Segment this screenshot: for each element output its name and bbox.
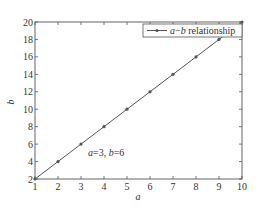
x-tick-label: 4 <box>102 181 107 192</box>
y-tick-label: 20 <box>23 17 33 28</box>
x-tick-label: 7 <box>171 181 176 192</box>
data-point-marker <box>102 125 105 128</box>
data-point-marker <box>171 73 174 76</box>
data-series <box>33 20 243 180</box>
annotation-mid: =3, <box>93 147 109 158</box>
legend-label: a−b relationship <box>170 25 235 36</box>
data-point-marker <box>194 55 197 58</box>
y-tick-label: 2 <box>28 174 33 185</box>
y-tick-label: 12 <box>23 86 33 97</box>
y-tick-label: 14 <box>23 69 33 80</box>
x-tick-label: 9 <box>217 181 222 192</box>
data-point-marker <box>148 90 151 93</box>
data-point-marker <box>33 177 36 180</box>
data-point-marker <box>79 143 82 146</box>
x-tick-label: 2 <box>56 181 61 192</box>
series-line <box>35 22 242 179</box>
x-tick-label: 3 <box>79 181 84 192</box>
y-axis-label: b <box>5 100 16 105</box>
y-tick-label: 18 <box>23 34 33 45</box>
x-axis-label: a <box>136 191 141 202</box>
y-tick-label: 16 <box>23 51 33 62</box>
x-tick-label: 6 <box>148 181 153 192</box>
x-tick-label: 8 <box>194 181 199 192</box>
data-point-marker <box>217 38 220 41</box>
axis-ticks: 123456789102468101214161820 <box>23 17 247 193</box>
y-tick-label: 4 <box>28 156 33 167</box>
x-tick-label: 5 <box>125 181 130 192</box>
y-tick-label: 8 <box>28 121 33 132</box>
data-point-marker <box>240 20 243 23</box>
y-tick-label: 10 <box>23 104 33 115</box>
data-point-marker <box>56 160 59 163</box>
annotation-end: =6 <box>114 147 125 158</box>
legend-marker-icon <box>155 29 158 32</box>
legend: a−b relationship <box>143 24 242 37</box>
data-point-marker <box>125 108 128 111</box>
annotation-label: a=3, b=6 <box>88 147 124 158</box>
x-tick-label: 10 <box>237 181 247 192</box>
chart: 123456789102468101214161820 a b a=3, b=6… <box>0 0 260 210</box>
x-tick-label: 1 <box>33 181 38 192</box>
y-tick-label: 6 <box>28 139 33 150</box>
